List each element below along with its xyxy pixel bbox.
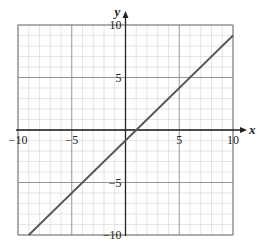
x-axis-label: x: [248, 122, 256, 137]
coordinate-plane: x y −10−5510 105−5−10: [0, 0, 263, 247]
y-axis-label: y: [113, 4, 121, 19]
x-tick-label: 10: [227, 133, 239, 147]
x-tick-label: −10: [9, 133, 28, 147]
y-tick-label: −5: [109, 176, 122, 190]
line-series: [29, 36, 233, 236]
x-axis-arrow-icon: [240, 127, 247, 133]
y-axis-arrow-icon: [123, 11, 129, 18]
data-series: [29, 36, 233, 236]
y-tick-label: −10: [103, 228, 122, 242]
x-tick-labels: −10−5510: [9, 133, 239, 147]
x-tick-label: 5: [176, 133, 182, 147]
y-tick-label: 10: [110, 18, 122, 32]
x-tick-label: −5: [65, 133, 78, 147]
y-tick-label: 5: [116, 71, 122, 85]
